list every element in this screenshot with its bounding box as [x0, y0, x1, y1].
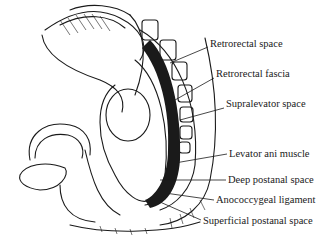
label-levator-ani-muscle: Levator ani muscle	[229, 148, 309, 160]
anatomy-figure: Retrorectal space Retrorectal fascia Sup…	[0, 0, 332, 239]
label-retrorectal-fascia: Retrorectal fascia	[216, 68, 290, 80]
label-superficial-postanal-space: Superficial postanal space	[203, 215, 313, 227]
label-supralevator-space: Supralevator space	[226, 98, 306, 110]
label-retrorectal-space: Retrorectal space	[210, 38, 283, 50]
label-deep-postanal-space: Deep postanal space	[228, 174, 314, 186]
label-anococcygeal-ligament: Anococcygeal ligament	[216, 194, 315, 206]
